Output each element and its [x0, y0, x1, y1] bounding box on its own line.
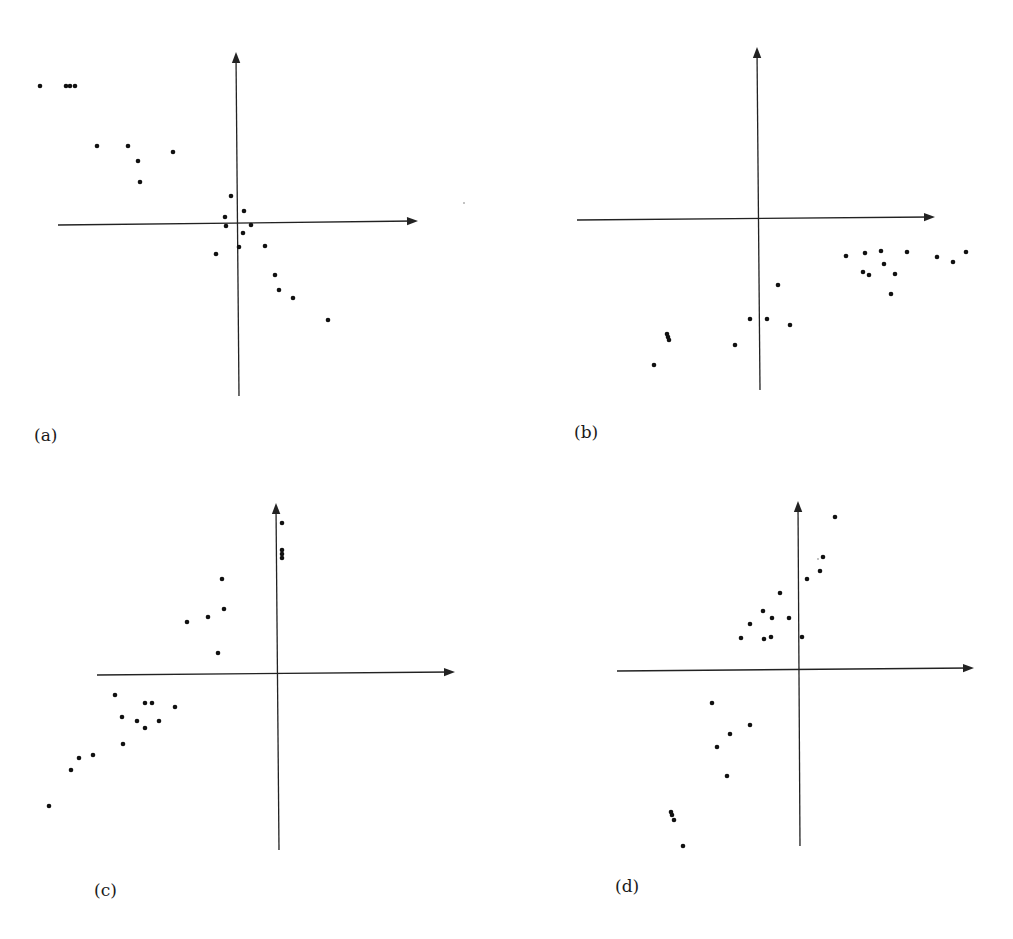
y-axis	[236, 56, 239, 396]
data-point	[263, 244, 268, 249]
data-point	[821, 555, 826, 560]
data-point	[77, 756, 82, 761]
data-point	[326, 318, 331, 323]
data-point	[762, 637, 767, 642]
data-point	[171, 150, 176, 155]
panel-b	[577, 47, 968, 390]
x-axis	[617, 668, 970, 671]
data-point	[185, 620, 190, 625]
data-point	[280, 521, 285, 526]
data-point	[120, 715, 125, 720]
x-axis	[577, 217, 931, 220]
data-point	[150, 701, 155, 706]
panel-label-b: (b)	[574, 424, 598, 441]
data-point	[748, 317, 753, 322]
data-point	[867, 273, 872, 278]
data-point	[725, 774, 730, 779]
data-point	[748, 723, 753, 728]
data-point	[229, 194, 234, 199]
data-point	[748, 622, 753, 627]
data-point	[670, 813, 675, 818]
data-point	[136, 159, 141, 164]
data-point	[761, 609, 766, 614]
data-point	[728, 732, 733, 737]
data-point	[935, 255, 940, 260]
data-point	[280, 556, 285, 561]
data-point	[113, 693, 118, 698]
data-point	[905, 250, 910, 255]
data-point	[242, 209, 247, 214]
data-point	[69, 768, 74, 773]
data-point	[173, 705, 178, 710]
y-axis-arrow-icon	[272, 503, 280, 514]
data-point	[277, 288, 282, 293]
data-point	[38, 84, 43, 89]
data-point	[769, 635, 774, 640]
data-point	[805, 577, 810, 582]
y-axis-arrow-icon	[794, 501, 802, 512]
data-point	[220, 577, 225, 582]
data-point	[135, 719, 140, 724]
data-point	[241, 231, 246, 236]
x-axis-arrow-icon	[444, 668, 455, 676]
data-point	[223, 215, 228, 220]
data-point	[652, 363, 657, 368]
y-axis-arrow-icon	[753, 47, 761, 58]
data-point	[126, 144, 131, 149]
data-point	[787, 616, 792, 621]
y-axis	[798, 505, 800, 846]
data-point	[733, 343, 738, 348]
data-point	[893, 272, 898, 277]
data-point	[157, 719, 162, 724]
data-point	[800, 635, 805, 640]
data-point	[879, 249, 884, 254]
data-point	[770, 616, 775, 621]
data-point	[778, 591, 783, 596]
data-point	[224, 224, 229, 229]
data-point	[788, 323, 793, 328]
stray-mark	[463, 202, 465, 204]
scatterplot-canvas	[0, 0, 1013, 939]
x-axis-arrow-icon	[407, 217, 418, 225]
data-point	[143, 701, 148, 706]
y-axis	[276, 507, 279, 850]
x-axis-arrow-icon	[924, 213, 935, 221]
data-point	[739, 636, 744, 641]
data-point	[951, 260, 956, 265]
data-point	[222, 607, 227, 612]
panel-c	[47, 503, 455, 850]
data-point	[863, 251, 868, 256]
data-point	[47, 804, 52, 809]
data-point	[882, 262, 887, 267]
data-point	[206, 615, 211, 620]
x-axis	[58, 221, 414, 225]
data-point	[138, 180, 143, 185]
y-axis-arrow-icon	[232, 52, 240, 63]
data-point	[280, 548, 285, 553]
data-point	[143, 726, 148, 731]
data-point	[249, 223, 254, 228]
stray-mark	[817, 558, 819, 560]
data-point	[95, 144, 100, 149]
panel-label-d: (d)	[615, 878, 639, 895]
data-point	[68, 84, 73, 89]
data-point	[844, 254, 849, 259]
data-point	[667, 338, 672, 343]
panel-label-a: (a)	[34, 427, 57, 444]
data-point	[73, 84, 78, 89]
data-point	[672, 818, 677, 823]
panel-label-c: (c)	[94, 882, 117, 899]
scatterplot-figure: (a) (b) (c) (d)	[0, 0, 1013, 939]
data-point	[214, 252, 219, 257]
data-point	[964, 250, 969, 255]
data-point	[889, 292, 894, 297]
data-point	[861, 270, 866, 275]
data-point	[121, 742, 126, 747]
data-point	[216, 651, 221, 656]
data-point	[91, 753, 96, 758]
data-point	[710, 701, 715, 706]
data-point	[818, 569, 823, 574]
x-axis-arrow-icon	[963, 664, 974, 672]
data-point	[833, 515, 838, 520]
panel-d	[617, 501, 974, 848]
